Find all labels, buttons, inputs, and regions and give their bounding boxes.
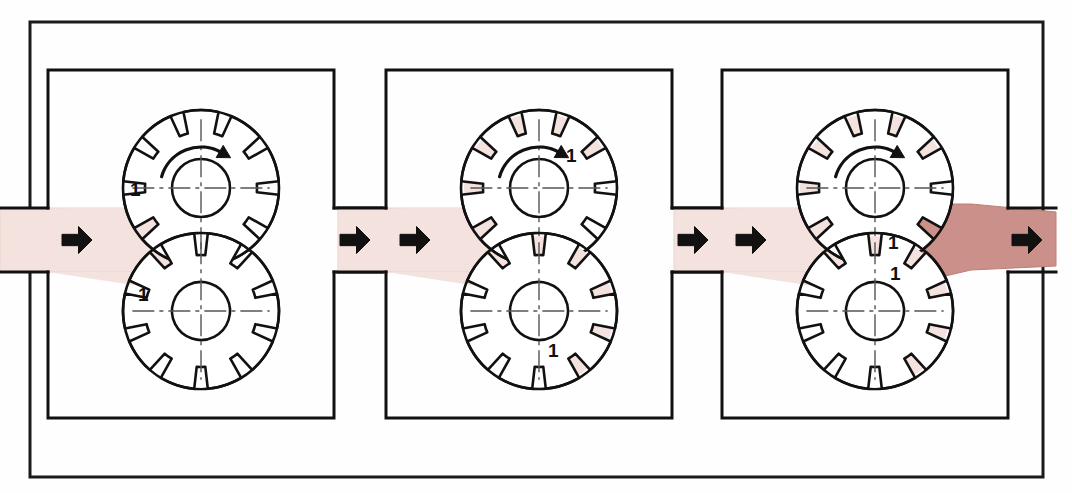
callout-lower-gear: 1 (890, 263, 901, 284)
stage-2-pockets-carry: 11 (338, 70, 720, 418)
callout-upper-gear: 1 (130, 179, 141, 200)
gear-pump-diagram: 111111 (0, 0, 1072, 493)
callout-lower-gear: 1 (138, 284, 149, 305)
stage-1-inlet-fill: 11 (0, 70, 382, 418)
figure-canvas: 111111 (0, 0, 1072, 493)
callout-upper-gear: 1 (566, 145, 577, 166)
callout-upper-gear: 1 (888, 232, 899, 253)
stage-3-discharge: 11 (674, 70, 1056, 418)
callout-lower-gear: 1 (548, 340, 559, 361)
